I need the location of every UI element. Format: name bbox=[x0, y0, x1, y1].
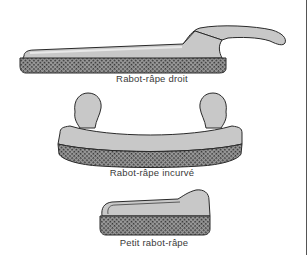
caption-small-rasp-plane: Petit rabot-râpe bbox=[120, 237, 189, 248]
small-rasp-plane-illustration bbox=[100, 190, 210, 235]
curved-rasp-plane-illustration bbox=[58, 93, 242, 168]
caption-curved-rasp-plane: Rabot-râpe incurvé bbox=[110, 167, 194, 178]
page-edge-rule bbox=[306, 0, 307, 255]
caption-straight-rasp-plane: Rabot-râpe droit bbox=[116, 73, 188, 84]
straight-rasp-plane-illustration bbox=[20, 26, 285, 73]
rasp-plane-figure: Rabot-râpe droit Rabot-râpe incurvé Peti… bbox=[0, 0, 308, 255]
